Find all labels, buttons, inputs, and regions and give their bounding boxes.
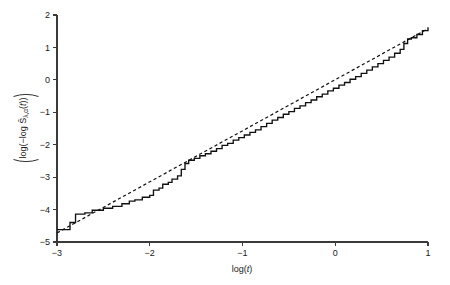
plot-svg: −5−4−3−2−1012 −3−2−101 log(t) log(−log Ŝ…	[0, 0, 450, 285]
y-tick-label: −2	[40, 140, 50, 150]
x-tick-label: −2	[145, 248, 155, 258]
y-title-sub: λ,α	[22, 109, 29, 118]
y-axis-title-text: log(−log Ŝλ,α(t))	[18, 97, 29, 158]
y-title-open: log(	[18, 144, 28, 159]
y-tick-label: −3	[40, 172, 50, 182]
x-tick-label: 1	[425, 248, 430, 258]
y-tick-label: −4	[40, 205, 50, 215]
x-title-suffix: )	[249, 264, 252, 274]
y-tick-label: 2	[45, 10, 50, 20]
y-tick-label: −5	[40, 237, 50, 247]
x-tick-label: −3	[52, 248, 62, 258]
y-tick-label: 1	[45, 43, 50, 53]
chart-figure: −5−4−3−2−1012 −3−2−101 log(t) log(−log Ŝ…	[0, 0, 450, 285]
y-title-neg: −log	[18, 124, 28, 144]
x-axis-title: log(t)	[232, 264, 253, 274]
x-axis-title-text: log(t)	[232, 264, 253, 274]
x-tick-label: −1	[237, 248, 247, 258]
x-title-prefix: log(	[232, 264, 247, 274]
y-tick-label: −1	[40, 107, 50, 117]
x-tick-label: 0	[333, 248, 338, 258]
y-tick-label: 0	[45, 75, 50, 85]
y-title-close: )	[18, 97, 28, 100]
